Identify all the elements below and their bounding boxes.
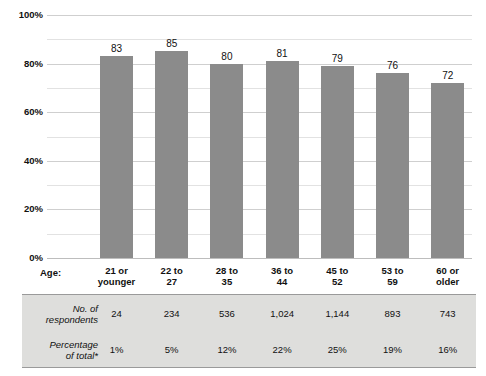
x-axis-category-label: 45 to52 [311,265,363,287]
bar-value-label: 85 [152,38,192,49]
bar [321,66,354,258]
table-cell: 1,144 [311,308,363,319]
bar [376,73,409,258]
table-cell: 19% [367,344,419,355]
bar [155,51,188,258]
bar [100,56,133,258]
gridline-major-100 [47,15,472,16]
table-cell: 536 [201,308,253,319]
bar [431,83,464,258]
bar-value-label: 83 [97,43,137,54]
table-cell: 234 [146,308,198,319]
table-cell: 25% [311,344,363,355]
gridline-major-0 [47,258,472,259]
table-cell: 22% [256,344,308,355]
y-tick-label-20: 20% [3,204,43,214]
x-axis-category-label: 60 orolder [422,265,474,287]
x-axis-category-label: 22 to27 [146,265,198,287]
bar-value-label: 79 [317,53,357,64]
table-cell: 893 [367,308,419,319]
x-axis-category-label: 21 oryounger [91,265,143,287]
table-cell: 1,024 [256,308,308,319]
x-axis-category-row: Age: 21 oryounger22 to2728 to3536 to4445… [0,262,486,292]
x-axis-category-label: 28 to35 [201,265,253,287]
x-axis-category-label: 53 to59 [367,265,419,287]
x-axis-category-label: 36 to44 [256,265,308,287]
bar [266,61,299,258]
table-cell: 16% [422,344,474,355]
table-row-header: Percentageof total* [22,339,98,361]
gridline-minor-90 [47,39,472,40]
y-tick-label-80: 80% [3,59,43,69]
table-cell: 5% [146,344,198,355]
bar-value-label: 80 [207,51,247,62]
bar-value-label: 72 [428,70,468,81]
bar-value-label: 76 [373,60,413,71]
table-cell: 1% [91,344,143,355]
table-row: No. ofrespondents242345361,0241,14489374… [22,295,476,331]
table-row-header: No. ofrespondents [22,303,98,325]
x-axis-title: Age: [40,267,98,278]
y-tick-label-60: 60% [3,107,43,117]
table-cell: 743 [422,308,474,319]
bar [210,64,243,258]
y-tick-label-40: 40% [3,156,43,166]
summary-data-table: No. ofrespondents242345361,0241,14489374… [22,294,476,368]
table-cell: 24 [91,308,143,319]
table-cell: 12% [201,344,253,355]
table-row: Percentageof total*1%5%12%22%25%19%16% [22,331,476,367]
y-tick-label-100: 100% [3,10,43,20]
bar-value-label: 81 [262,48,302,59]
bar-chart-figure: 100% 80% 60% 40% 20% 0% 83858081797672 A… [0,0,486,376]
